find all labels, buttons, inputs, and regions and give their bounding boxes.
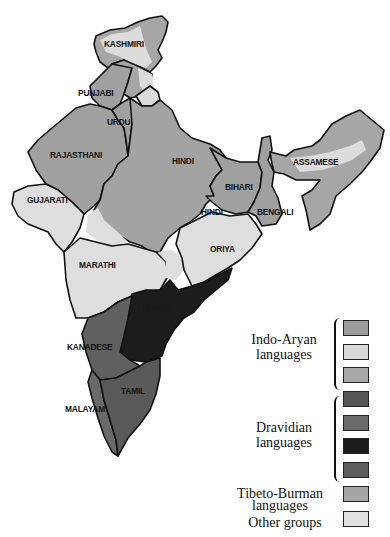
label-urdu: URDU — [107, 116, 130, 127]
label-bengali: BENGALI — [257, 206, 293, 217]
label-telugu: TELUGU — [137, 302, 170, 313]
label-kashmiri: KASHMIRI — [104, 38, 144, 49]
brace-indo-aryan — [334, 318, 342, 390]
label-gujarati: GUJARATI — [27, 194, 68, 205]
legend-label-indo-aryan: Indo-Aryan languages — [236, 332, 332, 362]
label-hindi-north: HINDI — [172, 155, 194, 166]
label-tamil: TAMIL — [121, 385, 145, 396]
map-legend: Indo-Aryan languages Dravidian languages… — [236, 316, 386, 534]
label-malayam: MALAYAM — [65, 403, 105, 414]
swatch-dravidian-2 — [343, 415, 369, 431]
legend-label-other: Other groups — [232, 515, 338, 530]
label-kanadese: KANADESE — [67, 341, 113, 352]
swatch-indo-aryan-2 — [343, 344, 369, 360]
label-oriya: ORIYA — [210, 243, 235, 254]
legend-label-dravidian: Dravidian languages — [236, 420, 332, 450]
label-assamese: ASSAMESE — [293, 156, 339, 167]
brace-dravidian — [334, 396, 342, 482]
label-marathi: MARATHI — [79, 259, 116, 270]
label-punjabi: PUNJABI — [78, 87, 113, 98]
label-rajasthani: RAJASTHANI — [50, 149, 102, 160]
swatch-indo-aryan-3 — [343, 367, 369, 383]
swatch-indo-aryan-1 — [343, 320, 369, 336]
swatch-dravidian-1 — [343, 391, 369, 407]
legend-label-tibeto-burman: Tibeto-Burman languages — [222, 486, 338, 516]
swatch-tibeto-burman — [343, 486, 369, 502]
label-bihari: BIHARI — [225, 181, 253, 192]
swatch-dravidian-4 — [343, 462, 369, 478]
label-hindi-south: HINDI — [201, 206, 223, 217]
swatch-dravidian-3 — [343, 438, 369, 454]
swatch-other — [343, 511, 369, 527]
